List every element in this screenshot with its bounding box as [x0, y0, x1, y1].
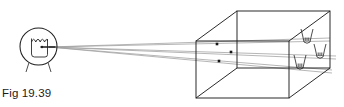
ray-middle: [49, 47, 336, 56]
box-wireframe: [196, 11, 330, 98]
box-edge-bottom-left: [196, 68, 237, 98]
box-front-face: [196, 41, 289, 98]
pupil-dot: [41, 46, 43, 48]
eye-leg-left: [26, 63, 29, 73]
eye-leg-right: [48, 63, 51, 73]
image-figure-1-ticks: [305, 38, 309, 42]
box-edge-bottom-right: [289, 68, 330, 98]
point-object-2: [230, 51, 233, 54]
ray-middle-return: [49, 47, 336, 59]
box-edge-top-right: [289, 11, 330, 41]
figure-container: Fig 19.39: [0, 0, 344, 107]
point-object-1: [216, 43, 219, 46]
point-object-3: [218, 60, 221, 63]
ray-upper: [49, 38, 330, 47]
image-figure-3-ticks: [298, 64, 302, 68]
ray-upper-return: [49, 41, 330, 47]
box-edge-top-left: [196, 11, 237, 41]
eye-lash-arcs: [32, 39, 48, 42]
image-figure-2-arms: [314, 44, 326, 50]
image-figure-1-arms: [301, 29, 313, 35]
eye-icon: [20, 28, 57, 72]
figure-drawing: [0, 0, 344, 107]
figure-caption: Fig 19.39: [2, 86, 51, 100]
image-figure-2: [314, 44, 326, 58]
ray-lower-return: [49, 47, 332, 73]
virtual-images: [294, 29, 326, 69]
ray-lower: [49, 47, 332, 70]
